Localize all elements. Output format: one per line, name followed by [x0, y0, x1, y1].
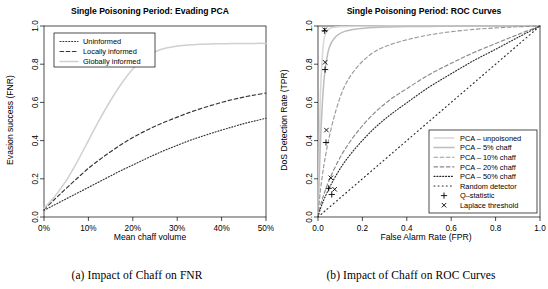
panel-b-ylabel: DoS Detection Rate (TPR) — [279, 69, 289, 170]
panel-a-caption: (a) Impact of Chaff on FNR — [0, 269, 274, 281]
figure-row: Single Poisoning Period: Evading PCA 0%1… — [0, 0, 548, 289]
panel-a-xlabel: Mean chaff volume — [114, 232, 187, 242]
panel-b-legend-label-3: PCA – 20% chaff — [460, 163, 517, 172]
panel-a-xtick-label: 50% — [258, 224, 274, 233]
panel-b-legend-label-0: PCA – unpoisoned — [460, 134, 521, 143]
panel-a-title: Single Poisoning Period: Evading PCA — [71, 6, 229, 16]
panel-b-ytick-label: 0.8 — [305, 58, 314, 70]
panel-b-plot: Single Poisoning Period: ROC Curves 0.00… — [274, 0, 548, 245]
panel-a-ytick-label: 0.0 — [31, 211, 40, 223]
panel-a-plot: Single Poisoning Period: Evading PCA 0%1… — [0, 0, 274, 245]
panel-b-xtick-label: 0.2 — [357, 224, 369, 233]
panel-a: Single Poisoning Period: Evading PCA 0%1… — [0, 0, 274, 289]
panel-a-xtick-label: 40% — [213, 224, 229, 233]
panel-b-legend-label-6: Q–statistic — [460, 191, 495, 200]
panel-a-series-0 — [44, 118, 266, 210]
panel-b-ytick-label: 0.6 — [305, 96, 314, 108]
panel-b-legend-label-2: PCA – 10% chaff — [460, 153, 517, 162]
panel-b-xtick-label: 0.8 — [490, 224, 502, 233]
panel-a-legend-label-1: Locally informed — [83, 47, 137, 56]
chart-roc-curves: Single Poisoning Period: ROC Curves 0.00… — [274, 0, 548, 245]
panel-b-title: Single Poisoning Period: ROC Curves — [347, 6, 502, 16]
panel-b-ytick-label: 0.4 — [305, 134, 314, 146]
panel-a-series-1 — [44, 93, 266, 209]
panel-b-legend-label-5: Random detector — [460, 182, 517, 191]
panel-b-xtick-label: 0.0 — [312, 224, 324, 233]
panel-b-ytick-label: 0.0 — [305, 211, 314, 223]
panel-b-legend-label-7: Laplace threshold — [460, 201, 518, 210]
panel-b: Single Poisoning Period: ROC Curves 0.00… — [274, 0, 548, 289]
panel-a-xtick-label: 0% — [38, 224, 50, 233]
chart-evading-pca: Single Poisoning Period: Evading PCA 0%1… — [0, 0, 274, 245]
panel-a-ytick-label: 0.6 — [31, 96, 40, 108]
panel-a-ylabel: Evasion success (FNR) — [5, 75, 15, 165]
panel-b-xlabel: False Alarm Rate (FPR) — [380, 232, 471, 242]
panel-a-ytick-label: 1.0 — [31, 20, 40, 32]
panel-b-ytick-label: 1.0 — [305, 20, 314, 32]
panel-a-ytick-label: 0.4 — [31, 134, 40, 146]
panel-b-legend-label-4: PCA – 50% chaff — [460, 172, 517, 181]
panel-b-caption: (b) Impact of Chaff on ROC Curves — [274, 269, 548, 281]
panel-a-ytick-label: 0.8 — [31, 58, 40, 70]
panel-a-legend-label-0: Uninformed — [83, 37, 121, 46]
panel-b-xtick-label: 1.0 — [534, 224, 546, 233]
panel-a-xtick-label: 10% — [80, 224, 96, 233]
panel-a-legend-label-2: Globally informed — [83, 57, 141, 66]
panel-b-legend-label-1: PCA – 5% chaff — [460, 143, 513, 152]
panel-a-ytick-label: 0.2 — [31, 173, 40, 185]
panel-b-ytick-label: 0.2 — [305, 173, 314, 185]
